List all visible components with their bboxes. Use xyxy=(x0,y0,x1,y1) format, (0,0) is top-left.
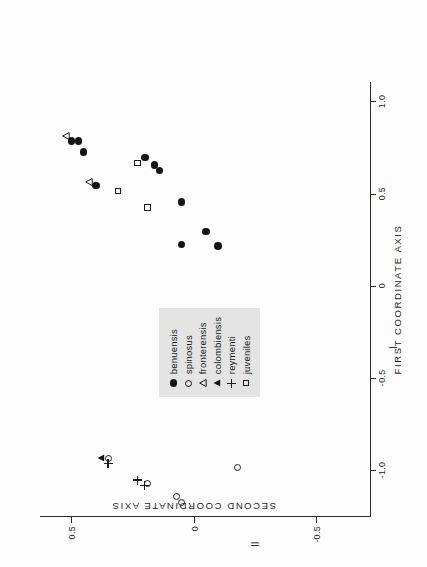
marker-filled-circle xyxy=(214,242,222,250)
plot-data-area xyxy=(42,84,370,517)
legend-symbol xyxy=(210,376,224,390)
x-tick: -1.0 xyxy=(370,470,376,471)
marker-filled-circle xyxy=(178,198,186,206)
marker-open-circle xyxy=(185,380,192,387)
x-tick: 0.5 xyxy=(370,194,376,195)
marker-open-circle xyxy=(178,499,185,506)
marker-plus xyxy=(227,379,236,388)
x-tick: -0.5 xyxy=(370,378,376,379)
rotated-plot-stage: -1.0-0.500.51.0 -0.500.5 FIRST COORDINAT… xyxy=(0,0,427,567)
legend-item-spinosus: spinosus xyxy=(181,317,196,390)
legend-item-benuensis: benuensis xyxy=(166,317,181,390)
legend-item-fronterensis: fronterensis xyxy=(195,317,210,390)
x-axis-title: FIRST COORDINATE AXIS xyxy=(392,82,403,517)
marker-open-square xyxy=(134,160,141,167)
legend-label: fronterensis xyxy=(197,322,208,374)
y-axis-title: SECOND COORDINATE AXIS xyxy=(29,501,359,512)
legend-label: colombiensis xyxy=(212,317,223,374)
y-tick: 0 xyxy=(194,517,195,523)
legend-item-colombiensis: colombiensis xyxy=(210,317,225,390)
marker-open-square xyxy=(115,188,122,195)
marker-open-square xyxy=(144,204,151,211)
legend-symbol xyxy=(181,376,195,390)
legend-item-juveniles: juveniles xyxy=(239,317,254,390)
x-tick-label: 1.0 xyxy=(377,95,387,108)
legend-symbol xyxy=(225,376,239,390)
legend-symbol xyxy=(167,376,181,390)
marker-filled-circle xyxy=(170,379,178,387)
x-axis-roman-numeral: I xyxy=(388,346,399,349)
x-tick: 1.0 xyxy=(370,101,376,102)
legend-symbol xyxy=(196,376,210,390)
legend-symbol xyxy=(239,376,253,390)
y-tick-label: -0.5 xyxy=(312,526,322,543)
legend-label: juveniles xyxy=(241,335,252,374)
marker-plus xyxy=(104,459,113,468)
y-tick: 0.5 xyxy=(71,517,72,523)
marker-filled-circle xyxy=(141,154,149,162)
x-tick: 0 xyxy=(370,286,376,287)
y-tick: -0.5 xyxy=(316,517,317,523)
legend-box: benuensisspinosusfronterensiscolombiensi… xyxy=(159,308,260,397)
marker-filled-circle xyxy=(202,228,210,236)
y-axis-line xyxy=(40,516,371,517)
y-tick-label: 0.5 xyxy=(67,526,77,539)
marker-open-square xyxy=(243,380,250,387)
figure-page: -1.0-0.500.51.0 -0.500.5 FIRST COORDINAT… xyxy=(0,0,427,567)
y-tick-label: 0 xyxy=(190,526,200,531)
x-tick-label: -0.5 xyxy=(377,369,387,386)
x-tick-label: 0 xyxy=(377,283,387,288)
legend-label: benuensis xyxy=(168,329,179,374)
legend-item-reymenti: reymenti xyxy=(224,317,239,390)
y-axis-roman-numeral: II xyxy=(249,541,260,547)
x-tick-label: 0.5 xyxy=(377,187,387,200)
legend-label: reymenti xyxy=(226,336,237,374)
marker-filled-circle xyxy=(92,182,100,190)
legend-label: spinosus xyxy=(183,335,194,374)
x-tick-label: -1.0 xyxy=(377,462,387,479)
marker-plus xyxy=(140,481,149,490)
x-axis-line xyxy=(370,82,371,517)
